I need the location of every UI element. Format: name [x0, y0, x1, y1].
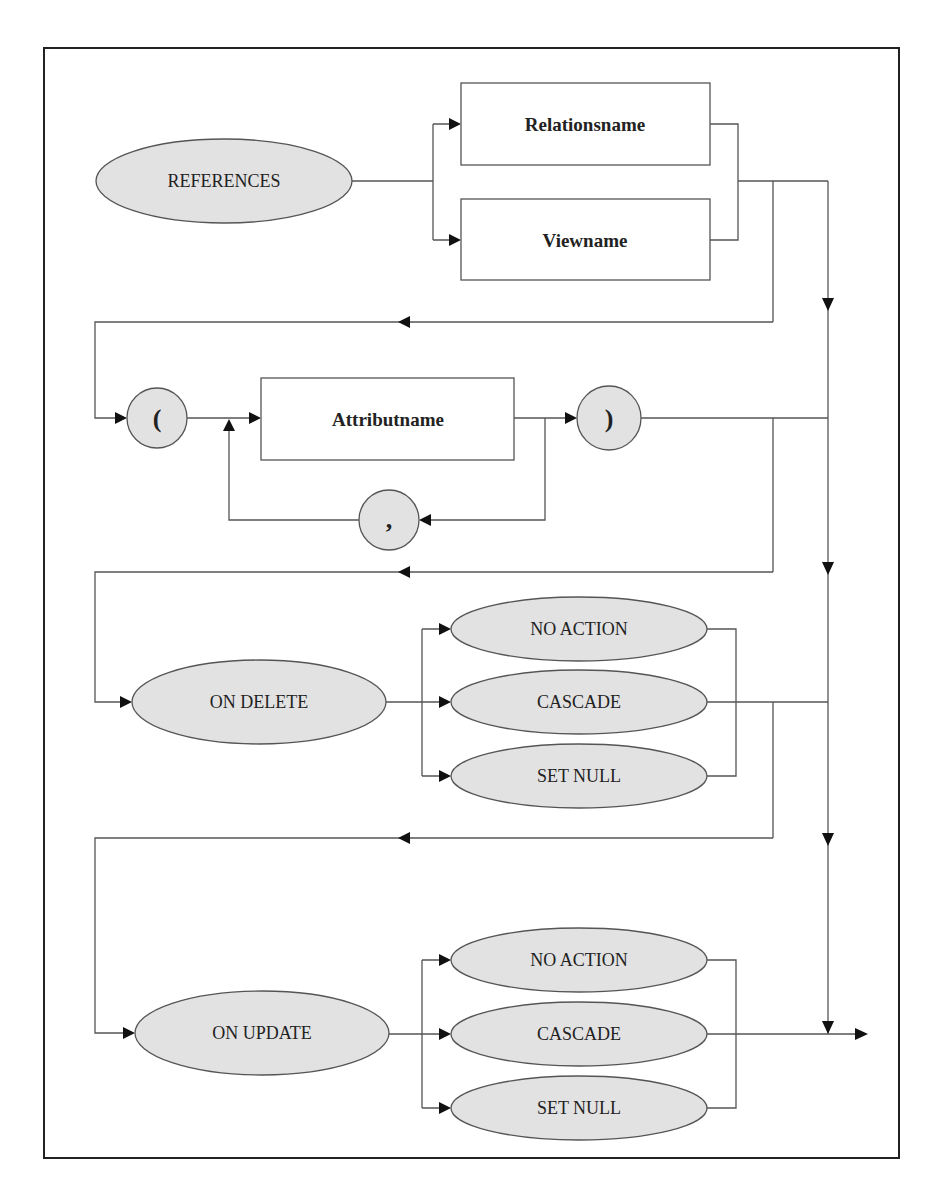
- attributname-label: Attributname: [332, 409, 444, 430]
- arrow-right-icon: [565, 412, 577, 424]
- split-connector: [386, 629, 440, 776]
- arrow-up-icon: [223, 419, 235, 431]
- arrow-right-icon: [439, 623, 451, 635]
- arrow-down-icon: [822, 298, 834, 311]
- option-label: CASCADE: [537, 692, 621, 712]
- option-label: CASCADE: [537, 1024, 621, 1044]
- arrow-right-icon: [249, 412, 261, 424]
- arrow-left-icon: [398, 316, 410, 328]
- attribute-list-section: ( Attributname , ): [95, 316, 828, 572]
- merge-connector: [641, 418, 828, 572]
- arrow-left-icon: [398, 832, 410, 844]
- relationsname-label: Relationsname: [525, 114, 645, 135]
- on-update-label: ON UPDATE: [212, 1023, 312, 1043]
- option-label: NO ACTION: [530, 950, 628, 970]
- comma-label: ,: [386, 505, 393, 534]
- split-connector: [352, 124, 450, 240]
- arrow-left-icon: [398, 566, 410, 578]
- references-section: REFERENCES Relationsname Viewname: [96, 83, 828, 322]
- arrow-right-icon: [120, 696, 132, 708]
- arrow-down-icon: [822, 1021, 834, 1034]
- arrow-down-icon: [822, 833, 834, 846]
- merge-connector: [707, 629, 828, 838]
- option-label: SET NULL: [537, 1098, 621, 1118]
- arrow-right-icon: [439, 696, 451, 708]
- on-delete-section: ON DELETE NO ACTION CASCADE SET NULL: [95, 566, 828, 838]
- arrow-right-icon: [449, 118, 461, 130]
- arrow-right-icon: [439, 1102, 451, 1114]
- arrow-right-icon: [439, 770, 451, 782]
- split-connector: [389, 960, 440, 1108]
- merge-connector: [707, 960, 856, 1108]
- arrow-right-icon: [449, 234, 461, 246]
- end-arrow-icon: [855, 1028, 868, 1040]
- close-paren-label: ): [605, 404, 614, 433]
- arrow-down-icon: [822, 562, 834, 575]
- option-label: SET NULL: [537, 766, 621, 786]
- on-update-section: ON UPDATE NO ACTION CASCADE SET NULL: [95, 832, 868, 1140]
- open-paren-label: (: [153, 404, 162, 433]
- syntax-diagram: REFERENCES Relationsname Viewname ( Attr…: [0, 0, 944, 1198]
- arrow-right-icon: [439, 1028, 451, 1040]
- viewname-label: Viewname: [543, 230, 628, 251]
- merge-connector: [710, 124, 828, 322]
- arrow-right-icon: [123, 1027, 135, 1039]
- on-delete-label: ON DELETE: [210, 692, 308, 712]
- option-label: NO ACTION: [530, 619, 628, 639]
- references-label: REFERENCES: [167, 171, 280, 191]
- arrow-right-icon: [439, 954, 451, 966]
- arrow-right-icon: [115, 412, 127, 424]
- arrow-left-icon: [419, 514, 431, 526]
